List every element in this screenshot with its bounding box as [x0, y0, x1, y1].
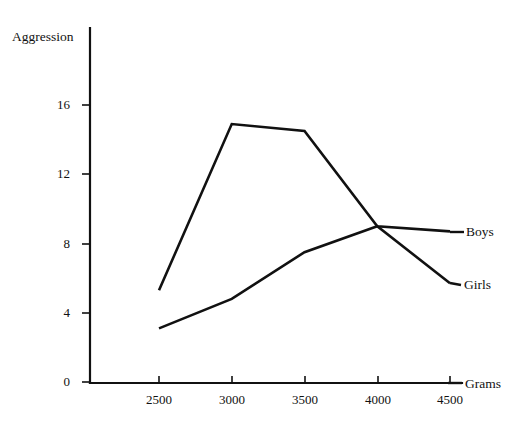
chart-plot-area [0, 0, 511, 426]
y-axis-title: Aggression [12, 30, 74, 44]
x-tick-label-4000: 4000 [348, 393, 408, 406]
x-tick-label-4500: 4500 [420, 393, 480, 406]
series-line-boys [159, 124, 450, 290]
aggression-vs-grams-chart: Aggression 0 4 8 12 16 2500 3000 3500 40… [0, 0, 511, 426]
x-tick-label-3500: 3500 [275, 393, 335, 406]
series-label-girls: Girls [464, 278, 491, 292]
x-tick-label-2500: 2500 [129, 393, 189, 406]
y-tick-label-16: 16 [36, 98, 70, 111]
y-tick-label-12: 12 [36, 167, 70, 180]
series-line-girls [159, 226, 450, 328]
girls-label-leader [450, 283, 461, 285]
y-tick-label-4: 4 [36, 306, 70, 319]
y-tick-label-8: 8 [36, 237, 70, 250]
y-tick-label-0: 0 [36, 375, 70, 388]
x-tick-label-3000: 3000 [202, 393, 262, 406]
x-axis-title: Grams [465, 377, 501, 391]
series-label-boys: Boys [466, 225, 494, 239]
